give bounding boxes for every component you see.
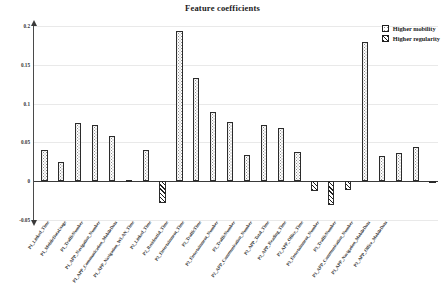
bar-slot[interactable] xyxy=(109,26,115,220)
bar[interactable] xyxy=(396,153,402,181)
bar[interactable] xyxy=(109,136,115,181)
bar-slot[interactable] xyxy=(413,26,419,220)
y-tick-label: 0.2 xyxy=(24,23,30,29)
bar-slot[interactable] xyxy=(362,26,368,220)
bar[interactable] xyxy=(176,31,182,181)
bar[interactable] xyxy=(227,122,233,181)
bar[interactable] xyxy=(75,123,81,181)
bar-slot[interactable] xyxy=(58,26,64,220)
plot-area: 0.20.150.10.050-0.05 xyxy=(33,26,438,220)
bar[interactable] xyxy=(159,181,165,203)
bar-slot[interactable] xyxy=(278,26,284,220)
feature-coefficients-chart: Feature coefficients 0.20.150.10.050-0.0… xyxy=(0,0,445,299)
bar[interactable] xyxy=(311,181,317,191)
bar[interactable] xyxy=(413,147,419,181)
y-tick-label: 0.05 xyxy=(21,139,30,145)
bar[interactable] xyxy=(261,125,267,182)
bar-slot[interactable] xyxy=(379,26,385,220)
bar[interactable] xyxy=(126,180,132,182)
bar-slot[interactable] xyxy=(429,26,435,220)
bar[interactable] xyxy=(278,128,284,181)
bar-slot[interactable] xyxy=(396,26,402,220)
bar-slot[interactable] xyxy=(193,26,199,220)
bar-slot[interactable] xyxy=(345,26,351,220)
bar[interactable] xyxy=(429,181,435,183)
legend: Higher mobilityHigher regularity xyxy=(382,25,440,42)
bar-slot[interactable] xyxy=(75,26,81,220)
chart-title: Feature coefficients xyxy=(0,3,445,13)
bar-slot[interactable] xyxy=(143,26,149,220)
legend-label: Higher mobility xyxy=(393,25,436,32)
bar[interactable] xyxy=(379,156,385,181)
bar-slot[interactable] xyxy=(41,26,47,220)
y-tick-label: 0.15 xyxy=(21,62,30,68)
bars xyxy=(33,26,438,220)
bar[interactable] xyxy=(193,78,199,181)
legend-swatch-regularity-icon xyxy=(382,35,389,42)
bar-slot[interactable] xyxy=(210,26,216,220)
legend-label: Higher regularity xyxy=(393,35,440,42)
bar-slot[interactable] xyxy=(244,26,250,220)
y-tick-label: 0.1 xyxy=(24,101,30,107)
legend-item[interactable]: Higher regularity xyxy=(382,35,440,42)
bar-slot[interactable] xyxy=(261,26,267,220)
bar-slot[interactable] xyxy=(227,26,233,220)
bar-slot[interactable] xyxy=(176,26,182,220)
bar[interactable] xyxy=(328,181,334,205)
bar[interactable] xyxy=(58,162,64,181)
bar-slot[interactable] xyxy=(92,26,98,220)
legend-swatch-mobility-icon xyxy=(382,25,389,32)
x-tick-label: P2_Entertainment_Time xyxy=(154,220,185,262)
bar-slot[interactable] xyxy=(126,26,132,220)
bar[interactable] xyxy=(41,150,47,181)
bar-slot[interactable] xyxy=(159,26,165,220)
legend-item[interactable]: Higher mobility xyxy=(382,25,440,32)
bar[interactable] xyxy=(345,181,351,190)
bar[interactable] xyxy=(92,125,98,181)
bar-slot[interactable] xyxy=(311,26,317,220)
bar[interactable] xyxy=(210,112,216,181)
bar[interactable] xyxy=(244,155,250,181)
x-tick-labels: P1_Linked_TimeP1_MobileDataUsageP1_Traff… xyxy=(33,220,438,299)
bar[interactable] xyxy=(362,42,368,181)
bar[interactable] xyxy=(294,152,300,181)
x-tick-label: P3_APP_Office_MobileData xyxy=(352,220,388,268)
bar-slot[interactable] xyxy=(294,26,300,220)
bar-slot[interactable] xyxy=(328,26,334,220)
y-tick-label: -0.05 xyxy=(19,217,30,223)
y-tick-label: 0 xyxy=(27,178,30,184)
bar[interactable] xyxy=(143,150,149,181)
